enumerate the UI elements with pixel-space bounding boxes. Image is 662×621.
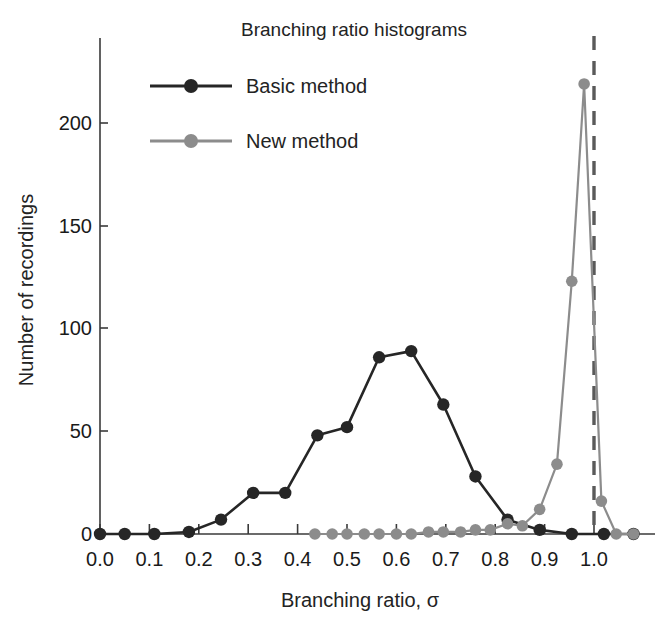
y-axis-title: Number of recordings bbox=[15, 194, 37, 386]
data-point bbox=[596, 495, 608, 507]
data-point bbox=[517, 520, 529, 532]
data-point bbox=[341, 528, 353, 540]
y-tick-label-150: 150 bbox=[59, 215, 92, 237]
data-point bbox=[484, 524, 496, 536]
data-point bbox=[533, 524, 545, 536]
x-tick-label-1.0: 1.0 bbox=[580, 548, 608, 570]
data-point bbox=[358, 528, 370, 540]
data-point bbox=[534, 504, 546, 516]
legend-label-new-method: New method bbox=[246, 130, 358, 152]
data-point bbox=[551, 458, 563, 470]
data-point bbox=[311, 429, 323, 441]
data-point bbox=[309, 528, 321, 540]
x-axis-title: Branching ratio, σ bbox=[281, 589, 440, 611]
data-point bbox=[119, 528, 131, 540]
x-tick-label-0.6: 0.6 bbox=[382, 548, 410, 570]
data-point bbox=[438, 526, 450, 538]
data-point bbox=[423, 526, 435, 538]
data-point bbox=[455, 526, 467, 538]
data-point bbox=[598, 528, 610, 540]
x-tick-label-0.7: 0.7 bbox=[432, 548, 460, 570]
legend-label-basic-method: Basic method bbox=[246, 75, 367, 97]
data-point bbox=[279, 487, 291, 499]
y-tick-label-200: 200 bbox=[59, 112, 92, 134]
chart-title: Branching ratio histograms bbox=[241, 19, 467, 40]
data-point bbox=[610, 528, 622, 540]
x-tick-label-0.9: 0.9 bbox=[531, 548, 559, 570]
y-tick-label-50: 50 bbox=[70, 420, 92, 442]
data-point bbox=[405, 345, 417, 357]
data-point bbox=[94, 528, 106, 540]
y-tick-label-100: 100 bbox=[59, 317, 92, 339]
data-point bbox=[373, 528, 385, 540]
data-point bbox=[437, 398, 449, 410]
data-point bbox=[373, 351, 385, 363]
branching-ratio-chart: Branching ratio histograms 0 50 100 150 … bbox=[0, 0, 662, 621]
data-point bbox=[469, 470, 481, 482]
data-point bbox=[183, 526, 195, 538]
x-tick-label-0.5: 0.5 bbox=[333, 548, 361, 570]
data-point bbox=[566, 275, 578, 287]
data-point bbox=[215, 513, 227, 525]
legend-marker-new-method bbox=[184, 134, 198, 148]
chart-page: Branching ratio histograms 0 50 100 150 … bbox=[0, 0, 662, 621]
legend-marker-basic-method bbox=[184, 79, 198, 93]
data-point bbox=[391, 528, 403, 540]
data-point bbox=[148, 528, 160, 540]
x-tick-label-0.0: 0.0 bbox=[86, 548, 114, 570]
data-point bbox=[326, 528, 338, 540]
x-tick-label-0.8: 0.8 bbox=[481, 548, 509, 570]
x-tick-label-0.4: 0.4 bbox=[284, 548, 312, 570]
data-point bbox=[502, 518, 514, 530]
x-tick-label-0.1: 0.1 bbox=[135, 548, 163, 570]
data-point bbox=[341, 421, 353, 433]
data-point bbox=[405, 528, 417, 540]
data-point bbox=[470, 524, 482, 536]
x-tick-label-0.3: 0.3 bbox=[234, 548, 262, 570]
data-point bbox=[628, 528, 640, 540]
data-point bbox=[566, 528, 578, 540]
x-tick-label-0.2: 0.2 bbox=[185, 548, 213, 570]
y-tick-label-0: 0 bbox=[81, 523, 92, 545]
data-point bbox=[578, 78, 590, 90]
data-point bbox=[247, 487, 259, 499]
